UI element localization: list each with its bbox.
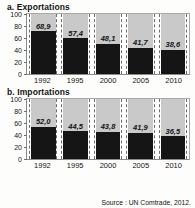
y-tick-20: 20 — [14, 59, 22, 66]
panel-a-title: a. Exportations — [3, 2, 192, 13]
bar-slot-2010: 36,5 — [157, 99, 189, 159]
gridline-vertical — [61, 14, 62, 74]
panel-exportations: a. Exportations 100 80 60 40 20 0 — [3, 2, 192, 87]
bar-slot-2005: 41,9 — [124, 99, 156, 159]
bar-value-exportations-1995: 57,4 — [59, 30, 91, 38]
bar-value-exportations-2000: 48,1 — [92, 35, 124, 43]
bar-slot-2010: 38,6 — [157, 14, 189, 74]
x-axis-importations: 1992 1995 2000 2005 2010 — [26, 160, 190, 171]
bar-value-importations-1995: 44,5 — [59, 123, 91, 131]
bar-slot-2000: 48,1 — [92, 14, 124, 74]
plot-area-exportations: 68,9 57,4 — [26, 13, 190, 75]
x-tick-2000: 2000 — [92, 75, 125, 86]
bar-exportations-1995[interactable] — [63, 38, 88, 74]
y-tick-100: 100 — [10, 11, 22, 18]
x-tick-1995: 1995 — [59, 160, 92, 171]
x-tick-1992: 1992 — [26, 75, 59, 86]
gridline-vertical — [56, 99, 57, 159]
bar-exportations-1992[interactable] — [31, 31, 56, 74]
x-tick-2010: 2010 — [157, 75, 190, 86]
y-axis-importations: 100 80 60 40 20 0 — [3, 98, 25, 160]
bar-slot-1995: 44,5 — [59, 99, 91, 159]
x-tick-2005: 2005 — [124, 75, 157, 86]
gridline-vertical — [89, 14, 90, 74]
bar-slot-1995: 57,4 — [59, 14, 91, 74]
y-tick-20: 20 — [14, 144, 22, 151]
x-tick-1992: 1992 — [26, 160, 59, 171]
plot-area-importations: 52,0 44,5 — [26, 98, 190, 160]
y-tick-60: 60 — [14, 35, 22, 42]
y-tick-40: 40 — [14, 132, 22, 139]
y-tick-80: 80 — [14, 108, 22, 115]
bar-importations-2005[interactable] — [128, 133, 153, 159]
bar-group-importations: 52,0 44,5 — [27, 99, 189, 159]
y-tick-0: 0 — [18, 156, 22, 163]
bar-value-exportations-2005: 41,7 — [124, 39, 156, 47]
x-tick-2005: 2005 — [124, 160, 157, 171]
bar-importations-1995[interactable] — [63, 131, 88, 159]
figure-container: a. Exportations 100 80 60 40 20 0 — [0, 0, 195, 208]
y-tick-0: 0 — [18, 71, 22, 78]
chart-importations: 100 80 60 40 20 0 — [3, 98, 192, 172]
gridline-vertical — [121, 14, 122, 74]
bar-slot-1992: 52,0 — [27, 99, 59, 159]
panel-b-title: b. Importations — [3, 87, 192, 98]
y-tick-100: 100 — [10, 96, 22, 103]
x-tick-2000: 2000 — [92, 160, 125, 171]
bar-value-importations-1992: 52,0 — [27, 118, 59, 126]
bar-value-exportations-1992: 68,9 — [27, 23, 59, 31]
panel-importations: b. Importations 100 80 60 40 20 0 — [3, 87, 192, 172]
y-tick-80: 80 — [14, 23, 22, 30]
bar-value-importations-2000: 43,8 — [92, 123, 124, 131]
chart-exportations: 100 80 60 40 20 0 — [3, 13, 192, 87]
bar-importations-2010[interactable] — [161, 136, 186, 159]
bar-exportations-2005[interactable] — [128, 48, 153, 74]
x-axis-exportations: 1992 1995 2000 2005 2010 — [26, 75, 190, 86]
bar-importations-1992[interactable] — [31, 127, 56, 159]
bar-importations-2000[interactable] — [96, 132, 121, 159]
bar-slot-1992: 68,9 — [27, 14, 59, 74]
gridline-vertical — [29, 99, 30, 159]
bar-value-importations-2010: 36,5 — [157, 128, 189, 136]
bar-exportations-2010[interactable] — [161, 50, 186, 74]
bar-group-exportations: 68,9 57,4 — [27, 14, 189, 74]
x-tick-1995: 1995 — [59, 75, 92, 86]
y-tick-60: 60 — [14, 120, 22, 127]
gridline-vertical — [94, 14, 95, 74]
y-axis-exportations: 100 80 60 40 20 0 — [3, 13, 25, 75]
y-tick-40: 40 — [14, 47, 22, 54]
bar-value-importations-2005: 41,9 — [124, 124, 156, 132]
x-tick-2010: 2010 — [157, 160, 190, 171]
bar-value-exportations-2010: 38,6 — [157, 41, 189, 49]
bar-slot-2005: 41,7 — [124, 14, 156, 74]
source-note: Source : UN Comtrade, 2012. — [101, 199, 191, 207]
bar-slot-2000: 43,8 — [92, 99, 124, 159]
bar-exportations-2000[interactable] — [96, 44, 121, 74]
